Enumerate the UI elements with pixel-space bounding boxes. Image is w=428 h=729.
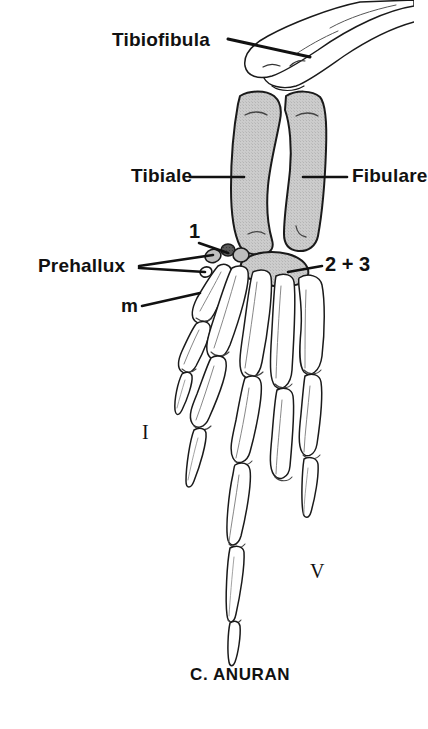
figure-caption: C. ANURAN: [190, 665, 290, 685]
label-element-1: 1: [189, 221, 200, 241]
leader-prehallux-upper: [139, 255, 213, 266]
label-elements-2-3: 2 + 3: [325, 254, 370, 274]
tibiale-bone: [231, 92, 281, 255]
label-digit-I: I: [142, 422, 149, 442]
label-prehallux: Prehallux: [38, 256, 125, 275]
leader-metatarsal: [142, 293, 200, 306]
label-tibiofibula: Tibiofibula: [112, 30, 210, 49]
label-tibiale: Tibiale: [131, 166, 192, 185]
fibulare-bone: [284, 92, 326, 251]
label-metatarsal: m: [121, 296, 138, 315]
leader-prehallux-lower: [139, 268, 205, 272]
tibiofibula-bone: [245, 0, 414, 91]
label-digit-V: V: [310, 561, 324, 581]
label-fibulare: Fibulare: [352, 166, 428, 185]
digit-V-bones: [299, 275, 325, 517]
digit-IV-bones: [270, 274, 294, 481]
